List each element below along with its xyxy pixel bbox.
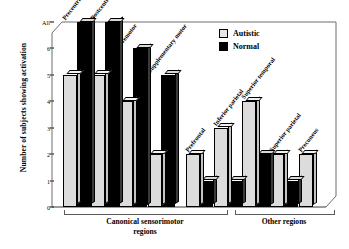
group-label-left: Canonical sensorimotor regions (54, 217, 236, 236)
legend-item-normal: Normal (219, 40, 260, 53)
group-brackets: Canonical sensorimotor regions Other reg… (52, 208, 336, 249)
bar-autistic-prefrontal (186, 154, 200, 207)
group-label-left-line1: Canonical sensorimotor (54, 217, 236, 227)
bar-side (228, 122, 232, 204)
bar-side (162, 149, 166, 204)
bar-side (119, 17, 123, 205)
legend-label-normal: Normal (233, 42, 259, 51)
bar-face (63, 75, 77, 207)
category-label-precentral: Precentral (60, 0, 83, 21)
bar-side (270, 149, 274, 204)
group-label-right: Other regions (230, 217, 338, 227)
y-tick-label-All: All (42, 19, 50, 26)
bar-face (186, 154, 200, 207)
bar-side (284, 149, 288, 204)
y-axis-title: Number of subjects showing activation (19, 23, 28, 193)
bars-layer (60, 22, 328, 207)
bar-side (256, 96, 260, 204)
legend-swatch-autistic (219, 29, 228, 38)
chart-figure: Number of subjects showing activation 01… (0, 0, 349, 249)
bar-side (77, 70, 81, 205)
group-label-right-line1: Other regions (230, 217, 338, 227)
group-label-left-line2: regions (54, 227, 236, 237)
bar-side (313, 149, 317, 204)
group-bracket-left (64, 210, 228, 215)
y-axis-ticks: 0123456All (28, 22, 52, 207)
bar-side (175, 70, 179, 205)
legend-item-autistic: Autistic (219, 27, 260, 40)
legend-swatch-normal (219, 42, 228, 51)
bar-side (200, 149, 204, 204)
legend-label-autistic: Autistic (233, 29, 260, 38)
bar-side (133, 96, 137, 204)
bar-autistic-precentral (63, 75, 77, 207)
legend: Autistic Normal (219, 27, 260, 53)
bar-side (147, 43, 151, 204)
group-bracket-right (235, 210, 335, 215)
bar-side (91, 17, 95, 205)
bar-side (105, 70, 109, 205)
